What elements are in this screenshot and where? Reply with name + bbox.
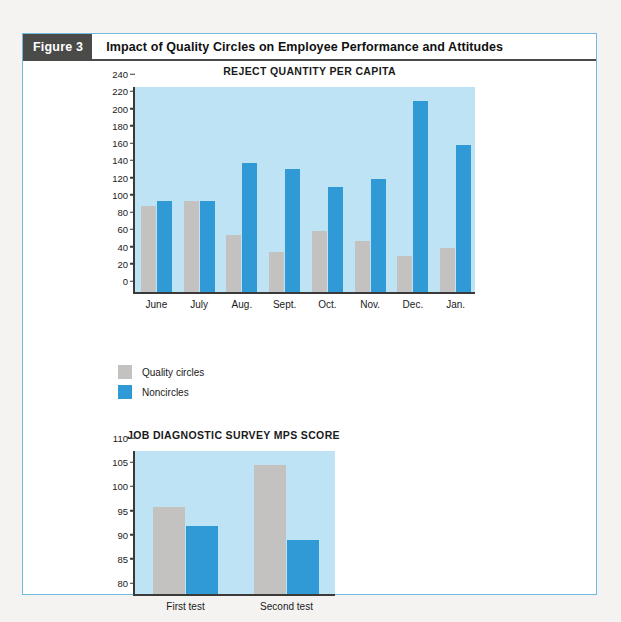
x-axis-tick-label: Nov. [360, 299, 380, 310]
y-axis-tick-label: 85 [117, 553, 135, 564]
bar-reject-quantity-per-capita-sept--noncircles [285, 169, 300, 292]
bar-reject-quantity-per-capita-aug--quality-circles [226, 235, 241, 292]
y-axis-tick-label: 180 [112, 120, 135, 131]
chart2-plot-area: 80859095100105110First testSecond test [133, 451, 335, 596]
bar-job-diagnostic-survey-mps-score-second-test-quality-circles [254, 465, 286, 594]
y-axis-tick-label: 80 [117, 578, 135, 589]
x-axis-tick-label: Aug. [232, 299, 253, 310]
bar-reject-quantity-per-capita-jan--quality-circles [440, 248, 455, 292]
bar-reject-quantity-per-capita-jan--noncircles [456, 145, 471, 292]
bar-reject-quantity-per-capita-july-noncircles [200, 201, 215, 292]
chart1-plot-area: 020406080100120140160180200220240JuneJul… [133, 87, 475, 294]
y-axis-tick-label: 60 [117, 224, 135, 235]
x-axis-tick-label: Dec. [403, 299, 424, 310]
x-axis-tick-label: July [190, 299, 208, 310]
legend-label-quality-circles: Quality circles [142, 367, 204, 378]
figure-title: Impact of Quality Circles on Employee Pe… [92, 34, 503, 59]
y-axis-tick-label: 105 [112, 457, 135, 468]
y-axis-tick-label: 95 [117, 505, 135, 516]
figure-header: Figure 3 Impact of Quality Circles on Em… [23, 34, 596, 61]
x-axis-tick-label: First test [166, 601, 204, 612]
legend-label-noncircles: Noncircles [142, 387, 189, 398]
x-axis-tick-label: Sept. [273, 299, 296, 310]
y-axis-tick-label: 40 [117, 241, 135, 252]
bar-job-diagnostic-survey-mps-score-first-test-noncircles [186, 526, 218, 594]
figure-number-tag: Figure 3 [23, 34, 92, 59]
y-axis-tick-label: 100 [112, 189, 135, 200]
y-axis-tick-label: 200 [112, 103, 135, 114]
chart2-title: JOB DIAGNOSTIC SURVEY MPS SCORE [127, 429, 596, 441]
y-axis-tick-label: 220 [112, 86, 135, 97]
y-axis-tick-label: 0 [123, 276, 135, 287]
bar-reject-quantity-per-capita-june-noncircles [157, 201, 172, 292]
y-axis-tick-label: 90 [117, 529, 135, 540]
bar-reject-quantity-per-capita-nov--quality-circles [355, 241, 370, 292]
y-axis-tick-label: 140 [112, 155, 135, 166]
chart-job-diagnostic-survey-mps-score: JOB DIAGNOSTIC SURVEY MPS SCORE 80859095… [23, 429, 596, 599]
legend-swatch-icon-quality-circles [118, 365, 132, 379]
y-axis-tick-label: 100 [112, 481, 135, 492]
y-axis-tick-label: 120 [112, 172, 135, 183]
bar-reject-quantity-per-capita-oct--noncircles [328, 187, 343, 292]
bar-reject-quantity-per-capita-aug--noncircles [242, 163, 257, 292]
x-axis-tick-label: June [146, 299, 168, 310]
y-axis-tick-label: 80 [117, 207, 135, 218]
bar-reject-quantity-per-capita-june-quality-circles [141, 206, 156, 292]
chart-reject-quantity-per-capita: REJECT QUANTITY PER CAPITA 0204060801001… [23, 61, 596, 351]
x-axis-tick-label: Oct. [318, 299, 336, 310]
legend-item-noncircles: Noncircles [118, 382, 204, 402]
x-axis-tick-label: Jan. [446, 299, 465, 310]
y-axis-tick-label: 20 [117, 258, 135, 269]
bar-job-diagnostic-survey-mps-score-second-test-noncircles [287, 540, 319, 594]
bar-reject-quantity-per-capita-july-quality-circles [184, 201, 199, 292]
legend-swatch-icon-noncircles [118, 385, 132, 399]
bar-reject-quantity-per-capita-dec--noncircles [413, 101, 428, 292]
y-axis-tick-label: 160 [112, 138, 135, 149]
bar-reject-quantity-per-capita-nov--noncircles [371, 179, 386, 292]
y-axis-tick-label: 240 [112, 69, 135, 80]
legend-item-quality-circles: Quality circles [118, 362, 204, 382]
chart-legend: Quality circles Noncircles [118, 362, 204, 402]
bar-reject-quantity-per-capita-sept--quality-circles [269, 252, 284, 292]
figure-panel: Figure 3 Impact of Quality Circles on Em… [22, 33, 597, 595]
x-axis-tick-label: Second test [260, 601, 313, 612]
bar-reject-quantity-per-capita-oct--quality-circles [312, 231, 327, 292]
y-axis-tick-label: 110 [113, 433, 135, 444]
bar-reject-quantity-per-capita-dec--quality-circles [397, 256, 412, 292]
bar-job-diagnostic-survey-mps-score-first-test-quality-circles [153, 507, 185, 594]
chart1-title: REJECT QUANTITY PER CAPITA [23, 65, 596, 77]
